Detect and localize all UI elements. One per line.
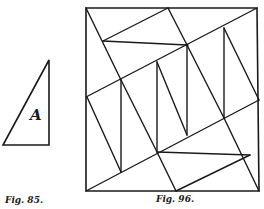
intersection-dot [185,43,188,46]
dissection-line [86,8,121,80]
dissection-line [224,28,259,100]
triangle-outline [3,60,49,145]
dissection-line [157,62,187,135]
dissection-line [168,8,187,45]
figure-85-caption: Fig. 85. [5,195,43,205]
figure-96-square-dissection [86,8,259,191]
dissection-line [103,41,187,45]
dissection-line [157,152,176,191]
dissection-line [86,100,259,191]
dissection-line [176,155,250,191]
dissection-line [187,45,224,118]
triangle-label-a: A [30,106,42,124]
dissection-line [121,80,157,152]
dissection-line [103,8,168,41]
dissection-line [86,8,257,97]
dissection-line [157,152,250,155]
figure-96-caption: Fig. 96. [156,194,194,204]
diagram-canvas [0,0,264,209]
figure-85-triangle [3,60,49,145]
dissection-line [87,97,121,172]
